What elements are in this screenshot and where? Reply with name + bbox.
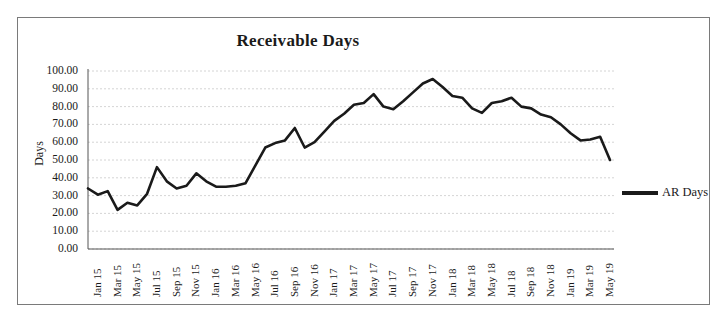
y-tick-label: 40.00 (26, 172, 78, 184)
y-tick-label: 60.00 (26, 136, 78, 148)
x-tick-label: May 16 (250, 263, 261, 297)
chart-legend: AR Days (622, 185, 708, 200)
x-tick-label: Mar 17 (348, 265, 359, 297)
x-tick-label: Mar 15 (112, 265, 123, 297)
y-tick-label: 90.00 (26, 83, 78, 95)
y-tick-label: 100.00 (26, 65, 78, 77)
chart-container: Receivable Days Days 100.0090.0080.0070.… (17, 17, 710, 305)
y-tick-label: 30.00 (26, 190, 78, 202)
x-tick-label: Nov 17 (427, 264, 438, 297)
gridlines (88, 71, 614, 249)
x-tick-label: Jan 17 (328, 269, 339, 297)
x-tick-label: Sep 16 (289, 267, 300, 297)
x-tick-label: Nov 18 (545, 264, 556, 297)
y-tick-label: 20.00 (26, 207, 78, 219)
x-tick-label: May 15 (131, 263, 142, 297)
y-tick-label: 10.00 (26, 225, 78, 237)
y-tick-label: 70.00 (26, 118, 78, 130)
x-tick-label: Nov 15 (190, 264, 201, 297)
x-tick-label: Jan 15 (92, 269, 103, 297)
x-tick-label: May 19 (604, 263, 615, 297)
x-tick-label: Jul 17 (387, 270, 398, 297)
axis-lines (88, 69, 614, 249)
x-tick-label: May 18 (486, 263, 497, 297)
y-tick-label: 80.00 (26, 101, 78, 113)
legend-label-ar-days: AR Days (662, 185, 708, 200)
x-tick-label: Jan 16 (210, 269, 221, 297)
x-tick-label: Mar 16 (230, 265, 241, 297)
series-line-ar-days (88, 79, 610, 210)
x-tick-label: Sep 17 (407, 267, 418, 297)
x-tick-label: Jul 15 (151, 270, 162, 297)
x-tick-label: Jan 18 (447, 269, 458, 297)
y-tick-label: 50.00 (26, 154, 78, 166)
x-tick-label: Mar 19 (584, 265, 595, 297)
x-tick-label: Sep 15 (171, 267, 182, 297)
x-tick-label: Jul 18 (506, 270, 517, 297)
legend-line-swatch (622, 191, 658, 195)
y-tick-label: 0.00 (26, 243, 78, 255)
x-tick-label: Sep 18 (525, 267, 536, 297)
x-tick-label: Mar 18 (466, 265, 477, 297)
x-tick-label: Jul 16 (269, 270, 280, 297)
x-tick-label: Nov 16 (309, 264, 320, 297)
x-tick-label: May 17 (368, 263, 379, 297)
x-tick-label: Jan 19 (565, 269, 576, 297)
